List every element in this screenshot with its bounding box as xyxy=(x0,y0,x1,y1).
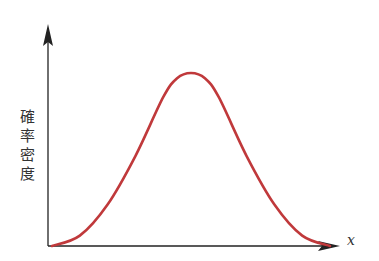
y-axis-label-char: 度 xyxy=(17,165,37,184)
y-axis-label-char: 密 xyxy=(17,146,37,165)
x-axis-label: x xyxy=(347,232,355,248)
y-axis-label: 確 率 密 度 xyxy=(17,108,37,184)
y-axis-label-char: 確 xyxy=(17,108,37,127)
y-axis-label-char: 率 xyxy=(17,127,37,146)
y-axis xyxy=(43,24,53,246)
density-chart xyxy=(0,0,379,261)
density-curve xyxy=(52,73,330,246)
x-axis xyxy=(48,241,340,251)
